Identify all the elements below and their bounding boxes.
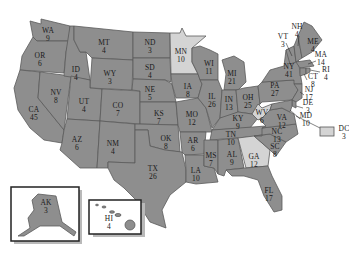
- state-label-la: LA10: [191, 167, 201, 182]
- state-label-vt: VT3: [278, 33, 288, 48]
- state-label-hi: HI4: [105, 215, 113, 230]
- state-label-mn: MN10: [175, 48, 188, 63]
- state-label-ar: AR6: [188, 137, 199, 152]
- state-label-az: AZ6: [72, 136, 82, 151]
- state-label-dc: DC3: [339, 125, 349, 140]
- state-votes: 8: [50, 97, 61, 105]
- state-votes: 26: [208, 101, 216, 109]
- state-label-pa: PA27: [270, 82, 279, 97]
- state-label-co: CO7: [113, 102, 124, 117]
- state-votes: 7: [113, 110, 124, 118]
- state-label-nm: NM4: [107, 140, 120, 155]
- state-label-wa: WA9: [42, 27, 54, 42]
- state-label-wi: WI11: [204, 60, 214, 75]
- state-label-tn: TN10: [226, 131, 236, 146]
- state-label-oh: OH25: [242, 94, 253, 109]
- state-label-wy: WY3: [104, 70, 117, 85]
- state-label-mo: MO12: [186, 111, 199, 126]
- state-votes: 13: [225, 104, 233, 112]
- state-label-ia: IA8: [184, 83, 192, 98]
- state-label-ma: MA14: [315, 51, 328, 66]
- state-label-mi: MI21: [227, 70, 237, 85]
- state-label-tx: TX26: [148, 165, 158, 180]
- state-label-ks: KS7: [154, 110, 164, 125]
- state-label-ga: GA12: [248, 153, 259, 168]
- state-votes: 12: [186, 119, 199, 127]
- state-votes: 21: [227, 78, 237, 86]
- state-label-ne: NE5: [145, 86, 155, 101]
- state-votes: 6: [35, 60, 46, 68]
- state-votes: 3: [104, 78, 117, 86]
- dc-box: [320, 127, 334, 136]
- state-votes: 4: [107, 148, 120, 156]
- state-label-wv: WV6: [256, 109, 269, 124]
- state-label-nv: NV8: [50, 89, 61, 104]
- state-label-fl: FL17: [264, 187, 273, 202]
- state-label-nh: NH4: [291, 23, 302, 38]
- state-votes: 9: [42, 35, 54, 43]
- state-label-md: MD10: [300, 112, 313, 127]
- state-votes: 10: [191, 175, 201, 183]
- state-votes: 17: [264, 195, 273, 203]
- state-votes: 8: [270, 151, 280, 159]
- state-votes: 4: [98, 47, 110, 55]
- state-label-or: OR6: [35, 52, 46, 67]
- state-votes: 10: [226, 139, 236, 147]
- state-votes: 45: [29, 114, 40, 122]
- state-votes: 25: [242, 102, 253, 110]
- state-votes: 7: [154, 118, 164, 126]
- state-label-ny: NY41: [283, 63, 294, 78]
- state-label-nc: NC13: [272, 128, 283, 143]
- state-votes: 3: [278, 41, 288, 49]
- state-votes: 7: [205, 160, 216, 168]
- state-votes: 11: [204, 68, 214, 76]
- state-label-nd: ND3: [144, 39, 155, 54]
- state-hi-big: [125, 220, 135, 230]
- state-votes: 12: [248, 161, 259, 169]
- state-votes: 4: [291, 31, 302, 39]
- state-label-sd: SD4: [145, 64, 155, 79]
- state-votes: 3: [144, 47, 155, 55]
- state-votes: 5: [145, 94, 155, 102]
- state-label-ok: OK8: [160, 135, 171, 150]
- state-votes: 6: [256, 117, 269, 125]
- state-label-ut: UT4: [79, 98, 89, 113]
- state-votes: 10: [300, 120, 313, 128]
- state-votes: 4: [72, 74, 80, 82]
- state-votes: 8: [184, 91, 192, 99]
- state-votes: 6: [72, 144, 82, 152]
- state-votes: 4: [145, 72, 155, 80]
- state-votes: 10: [175, 56, 188, 64]
- state-votes: 8: [160, 143, 171, 151]
- state-label-il: IL26: [208, 93, 216, 108]
- state-label-sc: SC8: [270, 143, 280, 158]
- state-votes: 3: [339, 133, 349, 141]
- state-votes: 41: [283, 71, 294, 79]
- state-votes: 26: [148, 173, 158, 181]
- state-label-ky: KY9: [232, 115, 243, 130]
- state-votes: 4: [322, 74, 330, 82]
- state-votes: 27: [270, 90, 279, 98]
- state-votes: 9: [232, 123, 243, 131]
- state-label-in: IN13: [225, 96, 233, 111]
- state-votes: 3: [40, 207, 51, 215]
- state-fl: [226, 166, 282, 212]
- state-votes: 6: [188, 145, 199, 153]
- state-label-al: AL9: [227, 151, 237, 166]
- state-ct: [300, 68, 306, 76]
- state-votes: 9: [227, 159, 237, 167]
- state-label-ca: CA45: [29, 106, 40, 121]
- state-label-id: ID4: [72, 66, 80, 81]
- state-votes: 4: [105, 223, 113, 231]
- state-label-ak: AK3: [40, 199, 51, 214]
- state-label-ri: RI4: [322, 66, 330, 81]
- state-label-ms: MS7: [205, 152, 216, 167]
- state-label-mt: MT4: [98, 39, 110, 54]
- state-votes: 4: [79, 106, 89, 114]
